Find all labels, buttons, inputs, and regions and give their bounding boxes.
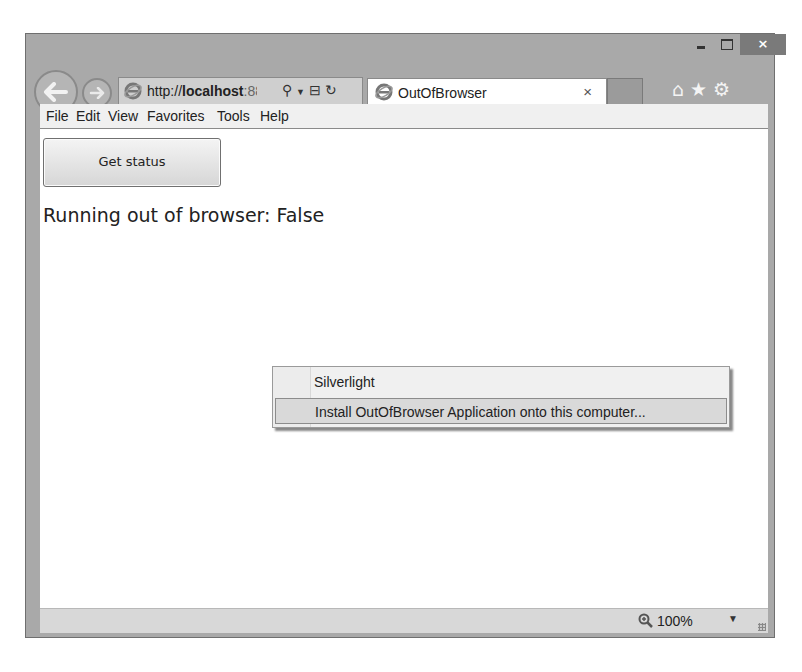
refresh-icon[interactable]: ↻ (325, 82, 341, 98)
compat-view-icon[interactable]: ⊟ (309, 82, 325, 98)
favorites-star-icon[interactable]: ★ (690, 78, 713, 100)
close-tab-icon[interactable]: × (583, 83, 592, 100)
url-rest: :88: (244, 83, 258, 99)
new-tab-button[interactable] (607, 78, 643, 106)
resize-grip[interactable] (758, 623, 766, 631)
context-menu-item-install[interactable]: Install OutOfBrowser Application onto th… (275, 398, 727, 424)
context-menu-item-label: Install OutOfBrowser Application onto th… (315, 404, 646, 420)
zoom-dropdown-icon[interactable]: ▼ (728, 613, 738, 624)
ie-logo-icon (375, 83, 393, 101)
status-text: Running out of browser: False (43, 204, 324, 226)
menu-file[interactable]: File (46, 108, 69, 124)
context-menu-item-label: Silverlight (314, 374, 375, 390)
search-icon[interactable]: ⚲ (282, 82, 296, 98)
menu-bar: File Edit View Favorites Tools Help (40, 104, 768, 129)
menu-edit[interactable]: Edit (76, 108, 100, 124)
home-icon[interactable]: ⌂ (672, 78, 690, 100)
url-host: localhost (182, 83, 243, 99)
arrow-left-icon (43, 82, 69, 102)
arrow-right-icon (89, 87, 105, 99)
url-prefix: http:// (147, 83, 182, 99)
browser-window: × http://localhost:88: ⚲▼⊟↻ OutOfBrowser… (25, 33, 775, 638)
zoom-level[interactable]: 100% (657, 613, 693, 629)
context-menu-item-silverlight[interactable]: Silverlight (275, 369, 727, 395)
close-window-button[interactable]: × (740, 34, 786, 55)
menu-view[interactable]: View (108, 108, 138, 124)
url-text[interactable]: http://localhost:88: (147, 83, 257, 99)
page-content: Get status Running out of browser: False… (40, 129, 768, 608)
address-bar-tools[interactable]: ⚲▼⊟↻ (282, 82, 341, 98)
dropdown-icon[interactable]: ▼ (296, 87, 309, 97)
context-menu: Silverlight Install OutOfBrowser Applica… (272, 366, 730, 428)
menu-favorites[interactable]: Favorites (147, 108, 205, 124)
menu-help[interactable]: Help (260, 108, 289, 124)
tab-title: OutOfBrowser (398, 85, 487, 101)
minimize-button[interactable] (688, 34, 714, 55)
menu-tools[interactable]: Tools (217, 108, 250, 124)
ie-logo-icon (124, 82, 142, 100)
maximize-button[interactable] (714, 34, 740, 55)
toolbar-icons: ⌂★⚙ (672, 78, 736, 100)
zoom-icon[interactable] (638, 613, 654, 629)
get-status-button[interactable]: Get status (43, 138, 221, 187)
address-bar[interactable]: http://localhost:88: ⚲▼⊟↻ (118, 77, 363, 105)
status-bar: 100% ▼ (40, 608, 768, 633)
settings-gear-icon[interactable]: ⚙ (713, 78, 736, 100)
tab-outofbrowser[interactable]: OutOfBrowser × (367, 78, 607, 106)
